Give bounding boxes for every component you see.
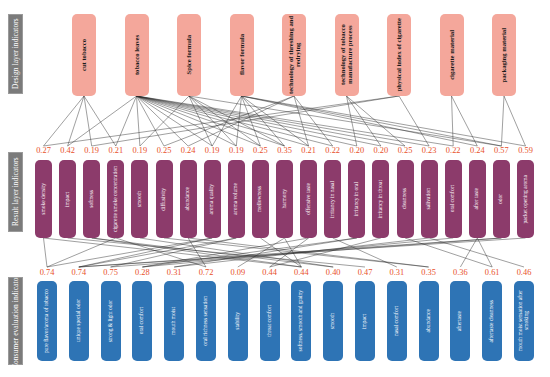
result-node[interactable]: impact [59,160,76,238]
result-node[interactable]: aroma quality [204,160,221,238]
result-node[interactable]: oral comfort [445,160,462,238]
consumer-node-weight: 0.09 [225,268,251,277]
consumer-node-weight: 0.31 [161,268,187,277]
result-node-label: oral comfort [450,185,456,212]
result-node[interactable]: smooth [131,160,148,238]
result-node-label: odor [498,194,504,204]
consumer-node-weight: 0.61 [479,268,505,277]
result-node-label: after taste [474,188,480,210]
consumer-node[interactable]: pure flavor/aroma of tobacco [37,281,57,361]
design-node[interactable]: tobacco leaves [125,14,149,96]
consumer-node[interactable]: oral richness sensation [196,281,216,361]
consumer-node[interactable]: mouth moist sensation after smoking [514,281,534,361]
result-node[interactable]: mellowness [252,160,269,238]
consumer-node-label: abundance [426,309,432,333]
consumer-node[interactable]: abundance [419,281,439,361]
result-node-label: irritancy in nasal [330,181,336,218]
design-node[interactable]: packaging material [492,14,516,96]
design-node[interactable]: technology of tobacco manufacture proces… [335,14,359,96]
result-node-weight: 0.35 [272,146,298,155]
result-node[interactable]: smoke density [35,160,52,238]
result-node-weight: 0.19 [79,146,105,155]
design-node-label: technology of threshing and redrying [287,14,301,96]
result-node-weight: 0.19 [223,146,249,155]
result-node-weight: 0.20 [344,146,370,155]
result-node-weight: 0.25 [247,146,273,155]
consumer-node-label: throat comfort [267,305,273,337]
consumer-node[interactable]: softness, smooth and grainy [291,281,311,361]
consumer-node-weight: 0.44 [288,268,314,277]
result-node-weight: 0.19 [199,146,225,155]
consumer-node[interactable]: unique special odor [69,281,89,361]
consumer-node[interactable]: impact [355,281,375,361]
result-node-weight: 0.42 [55,146,81,155]
result-node[interactable]: cigarette smoke concentration [107,160,124,238]
consumer-node[interactable]: aftertaste [450,281,470,361]
result-node[interactable]: offensive taste [300,160,317,238]
result-node[interactable]: diffusivity [156,160,173,238]
consumer-node-weight: 0.40 [320,268,346,277]
result-node-weight: 0.25 [392,146,418,155]
result-node[interactable]: odor [493,160,510,238]
result-node-label: cigarette smoke concentration [113,166,119,232]
result-node-weight: 0.21 [296,146,322,155]
consumer-node-label: oral comfort [139,307,145,334]
design-node-label: packaging material [500,28,507,82]
consumer-node-weight: 0.28 [129,268,155,277]
consumer-node-label: aftertaste cleanness [489,300,495,343]
result-node[interactable]: packet opening aroma [517,160,534,238]
consumer-node-label: pure flavor/aroma of tobacco [44,289,50,353]
result-node[interactable]: aroma volume [228,160,245,238]
result-node-label: smooth [137,191,143,207]
result-node-label: smoke density [41,183,47,215]
result-node-weight: 0.24 [175,146,201,155]
design-node[interactable]: cut tobacco [72,14,96,96]
result-node[interactable]: irritancy in oral [348,160,365,238]
consumer-node[interactable]: stability [228,281,248,361]
design-node[interactable]: cigarette material [440,14,464,96]
result-node-label: salivation [426,188,432,209]
design-node[interactable]: physical index of cigarette [387,14,411,96]
consumer-node-label: mouth moist sensation after smoking [518,281,530,361]
result-node-label: aroma volume [233,183,239,215]
result-node[interactable]: irritancy in throat [372,160,389,238]
result-node[interactable]: harmony [276,160,293,238]
result-node[interactable]: cleanness [397,160,414,238]
result-node[interactable]: after taste [469,160,486,238]
consumer-node-weight: 0.35 [416,268,442,277]
design-node[interactable]: Spice formula [177,14,201,96]
consumer-node-weight: 0.72 [193,268,219,277]
design-node[interactable]: technology of threshing and redrying [282,14,306,96]
result-node-label: irritancy in throat [378,180,384,219]
result-node-label: harmony [282,189,288,209]
result-node[interactable]: irritancy in nasal [324,160,341,238]
design-node[interactable]: flavor formula [230,14,254,96]
result-node-weight: 0.22 [320,146,346,155]
consumer-node[interactable]: smooth [323,281,343,361]
consumer-node-label: aftertaste [457,311,463,331]
consumer-node-weight: 0.44 [257,268,283,277]
consumer-node[interactable]: oral comfort [132,281,152,361]
result-node-label: abundance [185,187,191,211]
result-node-weight: 0.20 [368,146,394,155]
consumer-node-label: nasal comfort [394,306,400,336]
result-node-label: irritancy in oral [354,182,360,216]
consumer-node[interactable]: mouth moist [164,281,184,361]
consumer-node-label: unique special odor [76,299,82,342]
result-node-weight: 0.22 [440,146,466,155]
consumer-node[interactable]: throat comfort [260,281,280,361]
consumer-node-weight: 0.31 [384,268,410,277]
result-node-weight: 0.25 [151,146,177,155]
consumer-node[interactable]: aftertaste cleanness [482,281,502,361]
result-node[interactable]: softness [83,160,100,238]
consumer-node-label: mouth moist [171,307,177,335]
result-node[interactable]: salivation [421,160,438,238]
design-node-label: technology of tobacco manufacture proces… [339,14,353,96]
consumer-node-label: oral richness sensation [203,296,209,346]
result-node-label: packet opening aroma [523,175,529,224]
consumer-node-label: softness, smooth and grainy [298,290,304,351]
result-node[interactable]: abundance [180,160,197,238]
result-node-weight: 0.21 [103,146,129,155]
consumer-node[interactable]: nasal comfort [387,281,407,361]
consumer-node[interactable]: strong & light odor [101,281,121,361]
